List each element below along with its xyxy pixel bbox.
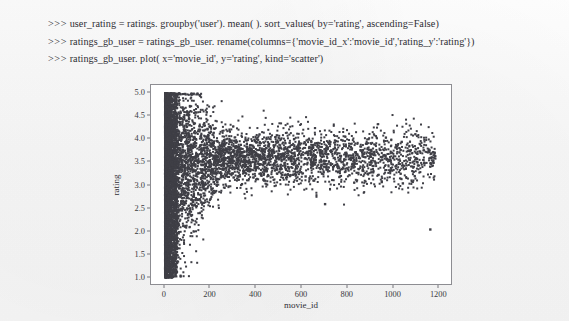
prompt-marker: >>> [48, 36, 67, 47]
code-text: user_rating = ratings. groupby('user'). … [70, 18, 439, 29]
code-text: ratings_gb_user. plot( x='movie_id', y='… [70, 53, 324, 64]
y-tick-mark [147, 92, 150, 93]
x-tick-label: 1200 [430, 290, 447, 299]
x-tick-label: 800 [340, 290, 353, 299]
scatter-plot-figure: 1.01.52.02.53.03.54.04.55.0 020040060080… [150, 84, 452, 285]
y-tick-mark [147, 276, 150, 277]
y-tick-mark [147, 230, 150, 231]
x-axis-label: movie_id [284, 300, 318, 310]
y-tick-label: 4.0 [135, 134, 145, 143]
y-tick-mark [147, 253, 150, 254]
x-tick-mark [438, 285, 439, 288]
x-tick-mark [209, 285, 210, 288]
y-tick-mark [147, 184, 150, 185]
x-tick-mark [392, 285, 393, 288]
y-tick-label: 2.5 [135, 203, 145, 212]
code-line: >>> user_rating = ratings. groupby('user… [48, 15, 556, 33]
y-axis-label: rating [111, 174, 121, 195]
y-tick-mark [147, 115, 150, 116]
y-tick-label: 3.5 [135, 157, 145, 166]
x-tick-mark [163, 285, 164, 288]
code-text: ratings_gb_user = ratings_gb_user. renam… [70, 36, 475, 47]
prompt-marker: >>> [48, 53, 67, 64]
code-line: >>> ratings_gb_user = ratings_gb_user. r… [48, 33, 556, 51]
y-tick-label: 1.0 [135, 272, 145, 281]
x-tick-label: 600 [295, 290, 308, 299]
y-tick-mark [147, 138, 150, 139]
y-tick-mark [147, 207, 150, 208]
x-tick-mark [301, 285, 302, 288]
x-tick-label: 1000 [384, 290, 401, 299]
x-tick-label: 200 [203, 290, 216, 299]
x-tick-mark [255, 285, 256, 288]
code-transcript: >>> user_rating = ratings. groupby('user… [48, 15, 556, 68]
x-tick-mark [346, 285, 347, 288]
y-tick-label: 2.0 [135, 226, 145, 235]
y-tick-label: 4.5 [135, 111, 145, 120]
plot-frame [150, 84, 452, 285]
x-tick-label: 0 [162, 290, 166, 299]
prompt-marker: >>> [48, 18, 67, 29]
y-tick-label: 5.0 [135, 88, 145, 97]
y-tick-label: 1.5 [135, 249, 145, 258]
y-tick-label: 3.0 [135, 180, 145, 189]
x-tick-label: 400 [249, 290, 262, 299]
scatter-points-canvas [151, 85, 452, 285]
y-tick-mark [147, 161, 150, 162]
code-line: >>> ratings_gb_user. plot( x='movie_id',… [48, 50, 556, 68]
